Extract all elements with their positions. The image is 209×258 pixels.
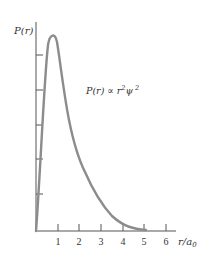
svg-text:2: 2 — [77, 236, 82, 247]
x-axis-label: r/a0 — [178, 236, 197, 249]
x-tick-labels: 1 2 3 4 5 6 — [56, 236, 169, 247]
svg-text:3: 3 — [99, 236, 104, 247]
y-axis-label: P(r) — [13, 25, 33, 36]
probability-chart: 1 2 3 4 5 6 P(r) r/a0 P(r) ∝ r2ψ 2 — [0, 0, 209, 258]
svg-text:4: 4 — [121, 236, 126, 247]
x-ticks — [58, 224, 166, 231]
probability-curve — [36, 36, 146, 231]
svg-text:5: 5 — [142, 236, 147, 247]
formula-annotation: P(r) ∝ r2ψ 2 — [85, 84, 139, 96]
svg-text:1: 1 — [56, 236, 61, 247]
svg-text:6: 6 — [164, 236, 169, 247]
